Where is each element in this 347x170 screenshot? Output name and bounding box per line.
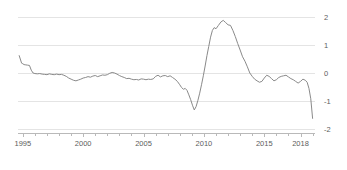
y-axis-tick-label: 1 [324,41,328,50]
y-axis-tick-label: 0 [324,69,328,78]
gridlines [18,18,315,130]
y-axis-tick-label: -1 [324,97,331,106]
series-lines [19,20,312,118]
x-axis-labels: 199520002005201020152018 [14,139,308,148]
y-axis-labels: 210-1-2 [324,13,331,134]
line-chart: 210-1-2 199520002005201020152018 [0,0,347,170]
x-axis-tick-label: 2015 [256,139,273,148]
y-axis-tick-label: -2 [324,125,331,134]
y-axis-tick-label: 2 [324,13,328,22]
x-axis-tick-label: 2010 [196,139,213,148]
x-axis-tick-label: 1995 [14,139,31,148]
series-line [19,20,312,118]
x-axis-tick-label: 2018 [292,139,309,148]
chart-container: 210-1-2 199520002005201020152018 [0,0,347,170]
x-axis-tick-label: 2005 [135,139,152,148]
x-axis-tick-label: 2000 [75,139,92,148]
x-axis [18,133,315,137]
